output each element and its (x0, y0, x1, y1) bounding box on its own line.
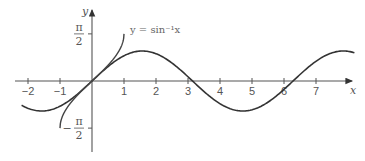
x-tick-label: 7 (313, 85, 319, 97)
y-tick-denominator: 2 (76, 129, 83, 142)
svg-text:−: − (62, 122, 71, 135)
curve-label: y = sin⁻¹x (129, 24, 180, 35)
y-tick-denominator: 2 (76, 35, 83, 48)
y-tick-numerator: π (75, 21, 82, 34)
y-axis-label: y (81, 5, 89, 18)
x-tick-label: −2 (22, 85, 35, 97)
x-axis-label: x (350, 84, 357, 97)
x-tick-label: 4 (217, 85, 223, 97)
x-tick-label: 3 (185, 85, 191, 97)
x-tick-label: 2 (153, 85, 159, 97)
y-tick-numerator: π (75, 115, 82, 128)
x-tick-label: −1 (54, 85, 67, 97)
chart-canvas: −2−11234567 π2π2− x y y = sin⁻¹x (0, 0, 365, 161)
x-tick-label: 5 (249, 85, 255, 97)
x-tick-label: 1 (121, 85, 127, 97)
